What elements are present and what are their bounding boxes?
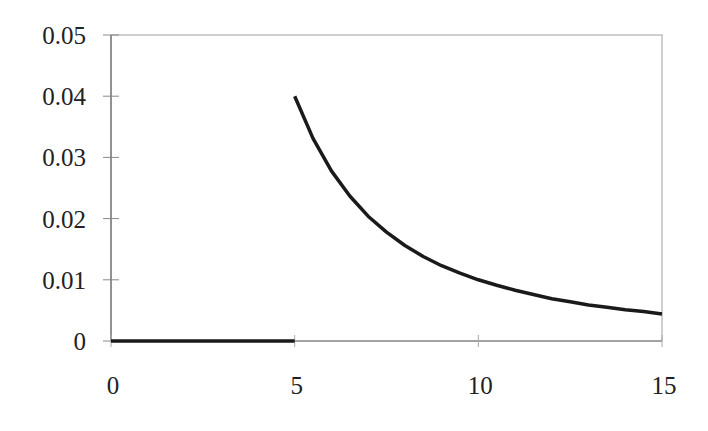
x-axis-ticks: 051015 [107,335,677,399]
y-tick-label: 0.01 [42,267,86,294]
y-tick-label: 0.02 [42,206,86,233]
y-axis-ticks: 00.010.020.030.040.05 [42,22,119,355]
line-chart: 00.010.020.030.040.05 051015 [0,0,708,431]
y-tick-label: 0.03 [42,144,86,171]
data-series [111,96,662,341]
decay-curve-line [295,96,662,314]
x-tick-label: 15 [652,372,677,399]
y-tick-label: 0.04 [42,83,86,110]
y-tick-label: 0 [74,328,87,355]
x-tick-label: 0 [107,372,120,399]
x-tick-label: 10 [468,372,493,399]
plot-frame [111,35,662,341]
x-tick-label: 5 [290,372,303,399]
y-tick-label: 0.05 [42,22,86,49]
